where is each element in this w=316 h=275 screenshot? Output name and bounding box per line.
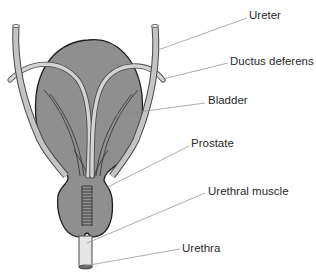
leader-urethra (84, 249, 180, 266)
label-ductus-deferens: Ductus deferens (230, 55, 314, 68)
leader-ductus-deferens (163, 63, 228, 79)
label-bladder: Bladder (208, 94, 248, 107)
label-ureter: Ureter (249, 9, 281, 22)
bladder-anatomy-diagram (0, 0, 316, 275)
label-prostate: Prostate (191, 137, 234, 150)
label-urethral-muscle: Urethral muscle (208, 185, 289, 198)
urethra-tube (79, 236, 92, 269)
leader-ureter (158, 18, 247, 50)
label-urethra: Urethra (182, 242, 220, 255)
